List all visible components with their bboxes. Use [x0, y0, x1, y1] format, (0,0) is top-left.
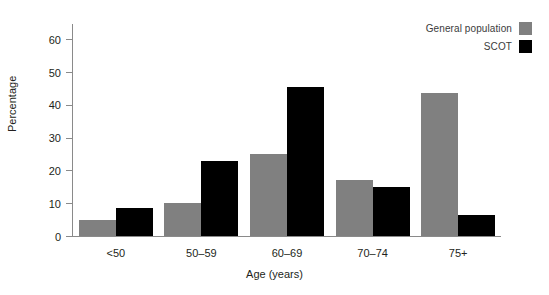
- x-axis-tick-label: 60–69: [244, 247, 330, 259]
- bar-series-container: [73, 24, 501, 236]
- y-axis-tick: 50: [66, 72, 72, 73]
- bar-group: [159, 24, 245, 236]
- bar-scot: [116, 208, 153, 236]
- bar-chart: General population SCOT Percentage 01020…: [0, 0, 549, 295]
- x-axis-tick-label: <50: [73, 247, 159, 259]
- y-axis-tick-label: 60: [49, 34, 61, 46]
- y-axis-tick: 40: [66, 105, 72, 106]
- bar-general-population: [421, 93, 458, 236]
- legend-swatch-scot: [519, 40, 532, 53]
- y-axis-tick-label: 10: [49, 198, 61, 210]
- x-axis-tick-label: 50–59: [159, 247, 245, 259]
- y-axis-tick: 60: [66, 39, 72, 40]
- y-axis-tick-label: 50: [49, 67, 61, 79]
- y-axis-tick-label: 0: [55, 231, 61, 243]
- bar-group: [73, 24, 159, 236]
- bar-scot: [287, 87, 324, 236]
- y-axis-tick-label: 20: [49, 165, 61, 177]
- bar-group: [415, 24, 501, 236]
- x-axis-tick-label: 75+: [415, 247, 501, 259]
- x-axis-tick-labels: <5050–5960–6970–7475+: [73, 247, 501, 259]
- x-axis-title: Age (years): [0, 268, 549, 280]
- bar-group: [244, 24, 330, 236]
- bar-general-population: [250, 154, 287, 236]
- bar-scot: [458, 215, 495, 236]
- y-axis-tick: 20: [66, 170, 72, 171]
- plot-area: 0102030405060: [72, 24, 501, 237]
- bar-general-population: [336, 180, 373, 236]
- y-axis-title: Percentage: [6, 76, 18, 132]
- x-axis-tick-label: 70–74: [330, 247, 416, 259]
- y-axis-tick: 0: [66, 236, 72, 237]
- bar-group: [330, 24, 416, 236]
- x-axis-line: [72, 236, 501, 237]
- legend-swatch-general-population: [519, 22, 532, 35]
- bar-scot: [373, 187, 410, 236]
- y-axis-tick: 30: [66, 138, 72, 139]
- y-axis-tick-label: 40: [49, 99, 61, 111]
- bar-general-population: [164, 203, 201, 236]
- y-axis-tick-label: 30: [49, 132, 61, 144]
- y-axis-tick: 10: [66, 203, 72, 204]
- bar-scot: [201, 161, 238, 236]
- bar-general-population: [79, 220, 116, 236]
